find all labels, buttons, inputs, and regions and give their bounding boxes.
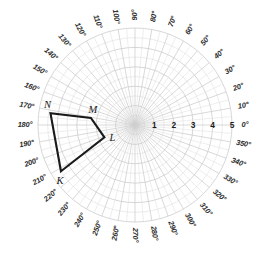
- angular-tick-label: 310°: [198, 200, 214, 217]
- angular-grid-spoke: [135, 31, 160, 125]
- vertex-label-m: M: [88, 104, 99, 115]
- angular-tick-label: 70°: [166, 15, 178, 28]
- angular-tick-label: 230°: [55, 200, 72, 218]
- angular-tick-label: 160°: [23, 80, 40, 94]
- angular-tick-label: 280°: [149, 224, 161, 241]
- angular-tick-label: 140°: [43, 46, 60, 62]
- angular-gridlines: [38, 28, 232, 222]
- angular-tick-label: 300°: [183, 211, 198, 228]
- angular-tick-label: 100°: [111, 9, 122, 25]
- angular-tick-label: 170°: [19, 100, 35, 111]
- angular-tick-label: 40°: [211, 47, 226, 62]
- radial-tick-label: 4: [210, 120, 215, 130]
- angular-tick-label: 30°: [223, 63, 237, 76]
- polar-plot-canvas: 0°10°20°30°40°50°60°70°80°90°100°110°120…: [0, 0, 272, 256]
- angular-grid-spoke: [110, 31, 135, 125]
- angular-tick-label: 120°: [73, 21, 88, 38]
- angular-tick-label: 10°: [237, 100, 249, 111]
- angular-grid-spoke: [135, 125, 160, 219]
- angular-tick-label: 210°: [30, 172, 48, 188]
- radial-tick-label: 1: [152, 120, 157, 130]
- angular-tick-label: 250°: [90, 220, 104, 238]
- angular-tick-label: 350°: [235, 138, 251, 149]
- angular-tick-label: 80°: [148, 10, 159, 22]
- vertex-label-n: N: [43, 99, 52, 110]
- angular-tick-label: 260°: [109, 225, 121, 242]
- radial-tick-label: 2: [171, 120, 176, 130]
- angular-tick-label: 240°: [71, 211, 87, 229]
- angular-tick-label: 110°: [91, 13, 104, 30]
- angular-tick-label: 200°: [22, 155, 40, 169]
- vertex-label-k: K: [55, 175, 64, 186]
- angular-tick-label: 0°: [242, 120, 249, 129]
- angular-tick-label: 190°: [19, 138, 35, 149]
- angular-tick-label: 180°: [18, 120, 33, 129]
- radial-tick-label: 3: [191, 120, 196, 130]
- angular-tick-label: 90°: [130, 9, 139, 20]
- vertex-label-l: L: [108, 132, 115, 143]
- angular-tick-label: 270°: [131, 227, 140, 243]
- angular-tick-label: 130°: [57, 32, 73, 49]
- angular-tick-label: 320°: [211, 187, 228, 203]
- angular-tick-label: 340°: [230, 155, 247, 169]
- angular-tick-label: 330°: [222, 172, 239, 187]
- angular-tick-label: 220°: [41, 187, 59, 204]
- angular-tick-label: 50°: [198, 33, 212, 47]
- radial-tick-label: 5: [230, 120, 235, 130]
- angular-tick-label: 290°: [166, 219, 180, 237]
- polar-chart: 0°10°20°30°40°50°60°70°80°90°100°110°120…: [0, 0, 272, 256]
- angular-tick-label: 150°: [31, 62, 48, 77]
- angular-tick-label: 60°: [183, 22, 196, 36]
- angular-tick-label: 20°: [231, 81, 245, 94]
